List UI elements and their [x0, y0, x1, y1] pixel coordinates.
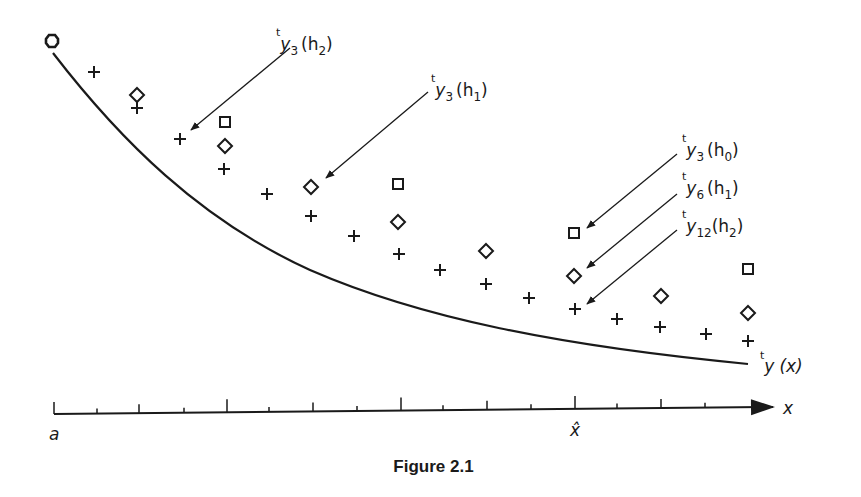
diamond-marker: [479, 244, 493, 258]
plus-marker: [654, 321, 666, 333]
plus-marker: [700, 328, 712, 340]
plus-marker: [174, 133, 186, 145]
exact-solution-curve: [53, 53, 748, 364]
label-y3-h2: ty3(h2): [276, 26, 333, 58]
plus-marker: [88, 66, 100, 78]
x-hat-label: x̂: [569, 420, 581, 440]
diamond-marker: [741, 306, 755, 320]
plus-marker: [305, 210, 317, 222]
label-y3-h0: ty3(h0): [682, 132, 739, 164]
x-axis: [54, 407, 773, 414]
square-marker: [393, 179, 403, 189]
plus-marker: [348, 230, 360, 242]
origin-label: a: [49, 424, 59, 444]
data-markers: [88, 66, 755, 347]
plus-marker: [480, 278, 492, 290]
arrow-y3-h2: [191, 48, 290, 130]
diamond-marker: [130, 88, 144, 102]
x-axis-label: x: [782, 398, 794, 418]
label-y12-h2: ty12(h2): [682, 208, 743, 240]
plus-marker: [434, 264, 446, 276]
plus-marker: [742, 335, 754, 347]
square-marker: [743, 264, 753, 274]
diamond-marker: [654, 289, 668, 303]
label-y6-h1: ty6(h1): [682, 170, 739, 202]
arrow-y3-h0: [587, 154, 677, 228]
diamond-marker: [391, 215, 405, 229]
diamond-marker: [218, 139, 232, 153]
annotation-arrows: [191, 48, 677, 304]
plus-marker: [218, 163, 230, 175]
diamond-marker: [304, 180, 318, 194]
diamond-marker: [567, 269, 581, 283]
square-marker: [220, 117, 230, 127]
square-marker: [569, 228, 579, 238]
plus-marker: [611, 313, 623, 325]
plus-marker: [569, 303, 581, 315]
label-y3-h1: ty3(h1): [431, 72, 488, 104]
plus-marker: [523, 292, 535, 304]
figure-diagram: ty3(h2) ty3(h1) ty3(h0) ty6(h1) ty12(h2)…: [0, 0, 861, 497]
plus-marker: [393, 248, 405, 260]
plus-marker: [131, 102, 143, 114]
plus-marker: [261, 188, 273, 200]
arrow-y3-h1: [326, 92, 428, 178]
start-point-marker: [46, 35, 58, 47]
curve-label: ty(x): [760, 349, 803, 376]
arrow-y6-h1: [587, 194, 677, 268]
figure-caption: Figure 2.1: [0, 457, 861, 477]
